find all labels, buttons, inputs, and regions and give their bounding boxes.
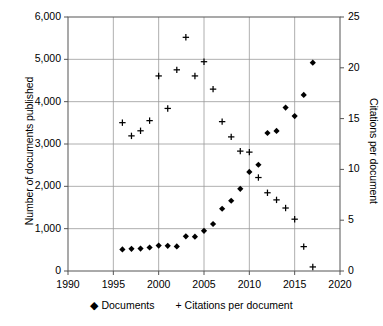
- x-axis-tick-label: 1995: [91, 278, 135, 290]
- y-axis-left-tick-label: 5,000: [17, 52, 61, 64]
- y-axis-right-tick-label: 0: [348, 264, 383, 276]
- y-axis-left-tick-label: 3,000: [17, 137, 61, 149]
- x-axis-tick-label: 1990: [46, 278, 90, 290]
- legend-label-citations: Citations per document: [185, 299, 293, 311]
- chart-legend: ◆Documents +Citations per document: [0, 299, 383, 311]
- chart-figure: Number of documents published Citations …: [0, 0, 383, 326]
- x-axis-tick-label: 2005: [182, 278, 226, 290]
- y-axis-left-tick-label: 1,000: [17, 222, 61, 234]
- y-axis-left-tick-label: 4,000: [17, 95, 61, 107]
- y-axis-left-tick-label: 2,000: [17, 179, 61, 191]
- y-axis-left-tick-label: 0: [17, 264, 61, 276]
- plus-marker-icon: +: [175, 299, 181, 311]
- x-axis-tick-label: 2010: [227, 278, 271, 290]
- x-axis-tick-label: 2015: [273, 278, 317, 290]
- y-axis-right-tick-label: 10: [348, 162, 383, 174]
- legend-label-documents: Documents: [101, 299, 154, 311]
- x-axis-tick-label: 2000: [137, 278, 181, 290]
- y-axis-left-tick-label: 6,000: [17, 10, 61, 22]
- legend-item-citations: +Citations per document: [175, 299, 292, 311]
- series-citations-points: [119, 34, 316, 270]
- y-axis-right-tick-label: 25: [348, 10, 383, 22]
- x-axis-tick-label: 2020: [318, 278, 362, 290]
- series-documents-points: [119, 60, 316, 253]
- y-axis-right-tick-label: 15: [348, 112, 383, 124]
- diamond-marker-icon: ◆: [90, 299, 98, 311]
- y-axis-right-tick-label: 5: [348, 213, 383, 225]
- legend-item-documents: ◆Documents: [90, 299, 154, 311]
- y-axis-right-tick-label: 20: [348, 61, 383, 73]
